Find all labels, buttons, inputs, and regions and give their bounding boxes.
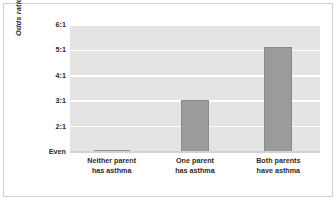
- x-axis-tick-label-line: Both parents: [237, 156, 320, 166]
- gridline: [70, 25, 320, 26]
- x-axis-tick-label: One parenthas asthma: [153, 156, 236, 175]
- x-axis-tick-label-line: has asthma: [153, 166, 236, 176]
- y-axis-tick-label: Even: [30, 148, 66, 156]
- y-axis-tick-label-group: Even2:13:14:15:16:1: [30, 25, 66, 157]
- x-axis-tick-label: Both parentshave asthma: [237, 156, 320, 175]
- axis-baseline: [70, 151, 320, 153]
- plot-area: [70, 25, 320, 152]
- bar: [264, 47, 292, 152]
- y-axis-title: Odds ratio: [14, 0, 28, 36]
- y-axis-tick-label: 6:1: [30, 21, 66, 29]
- y-axis-tick-label: 5:1: [30, 46, 66, 54]
- y-axis-tick-label: 2:1: [30, 123, 66, 131]
- chart-figure-frame: Odds ratio Even2:13:14:15:16:1 Neither p…: [3, 3, 333, 197]
- y-axis-tick-label: 4:1: [30, 72, 66, 80]
- x-axis-tick-label-line: have asthma: [237, 166, 320, 176]
- y-axis-tick-label: 3:1: [30, 97, 66, 105]
- bar: [181, 100, 209, 152]
- x-axis-tick-label-line: One parent: [153, 156, 236, 166]
- x-axis-tick-label: Neither parenthas asthma: [70, 156, 153, 175]
- x-axis-tick-label-line: has asthma: [70, 166, 153, 176]
- x-axis-tick-label-group: Neither parenthas asthmaOne parenthas as…: [70, 156, 320, 186]
- x-axis-tick-label-line: Neither parent: [70, 156, 153, 166]
